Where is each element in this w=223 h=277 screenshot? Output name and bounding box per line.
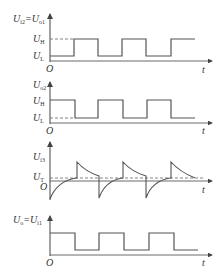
t-label: t (202, 125, 205, 136)
ul-label: UL (33, 112, 44, 124)
t-label: t (202, 184, 205, 195)
y-label: Uo2 (33, 79, 46, 91)
panel-1: Ui2=Uo1 UH UL O t (13, 13, 212, 75)
panel-2: Uo2 UH UL O t (33, 79, 212, 136)
t-label: t (202, 257, 205, 268)
square-wave (50, 233, 198, 250)
waveform-diagram: Ui2=Uo1 UH UL O t Uo2 UH UL O t Ui3 UT O… (0, 0, 223, 277)
uh-label: UH (33, 33, 45, 45)
square-wave (50, 100, 195, 118)
origin-label: O (46, 125, 53, 136)
y-label: Ui2=Uo1 (13, 13, 45, 25)
origin-label: O (40, 181, 47, 192)
panel-3: Ui3 UT O t (33, 142, 212, 200)
t-label: t (202, 64, 205, 75)
differentiated-spikes (50, 162, 195, 199)
y-label: Uo=Ui1 (13, 214, 42, 226)
uh-label: UH (33, 95, 45, 107)
panel-4: Uo=Ui1 O t (13, 214, 212, 268)
origin-label: O (46, 257, 53, 268)
ul-label: UL (33, 50, 44, 62)
origin-label: O (46, 63, 53, 74)
square-wave (50, 39, 195, 56)
y-label: Ui3 (33, 151, 45, 163)
